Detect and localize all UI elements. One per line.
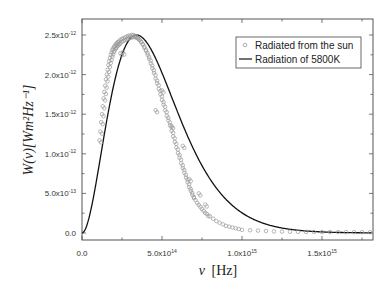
x-axis-symbol: ν bbox=[199, 263, 206, 278]
x-axis-unit: [Hz] bbox=[212, 263, 238, 278]
y-tick-label: 0.0 bbox=[65, 229, 77, 238]
x-tick-label: 0.0 bbox=[76, 249, 88, 258]
planck-radiation-chart: 0.05.0x10141.0x10151.5x10150.05.0x10-131… bbox=[0, 0, 391, 294]
legend-label-5800k: Radiation of 5800K bbox=[255, 54, 340, 65]
svg-text:ν [Hz]: ν [Hz] bbox=[199, 263, 237, 278]
y-axis-title: W(ν)[Wm²Hz⁻¹] bbox=[21, 85, 37, 176]
x-axis-title: ν [Hz] bbox=[199, 263, 237, 278]
legend-label-sun: Radiated from the sun bbox=[255, 40, 353, 51]
y-axis-label: W(ν)[Wm²Hz⁻¹] bbox=[21, 85, 37, 176]
legend: Radiated from the sun Radiation of 5800K bbox=[236, 37, 361, 68]
